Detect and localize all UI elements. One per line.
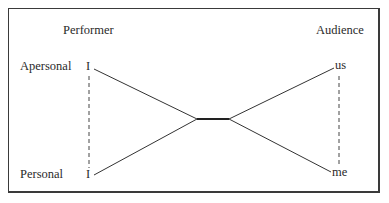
audience-top-node: us (335, 59, 346, 72)
line-center-to-me (229, 119, 331, 172)
line-personal-i-to-center (94, 119, 197, 175)
line-center-to-us (229, 68, 334, 119)
audience-bottom-node: me (332, 166, 347, 179)
audience-header: Audience (316, 24, 364, 37)
personal-label: Personal (20, 168, 63, 181)
performer-bottom-node: I (86, 168, 90, 181)
apersonal-label: Apersonal (20, 60, 71, 73)
line-apersonal-i-to-center (94, 69, 197, 119)
performer-header: Performer (63, 24, 114, 37)
performer-top-node: I (86, 60, 90, 73)
